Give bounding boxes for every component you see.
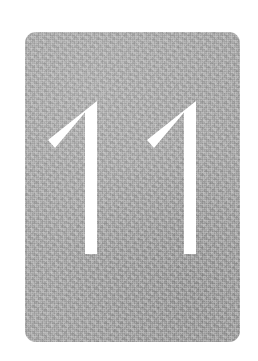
digit-one-second-path xyxy=(147,101,196,254)
scene: 11 xyxy=(0,0,258,361)
numeral-eleven-svg xyxy=(25,32,240,342)
numeral-eleven xyxy=(25,32,240,342)
card-luminance-drift xyxy=(25,32,240,342)
digit-one-first-path xyxy=(48,101,97,254)
number-card xyxy=(25,32,240,342)
card-grain-texture xyxy=(25,32,240,342)
